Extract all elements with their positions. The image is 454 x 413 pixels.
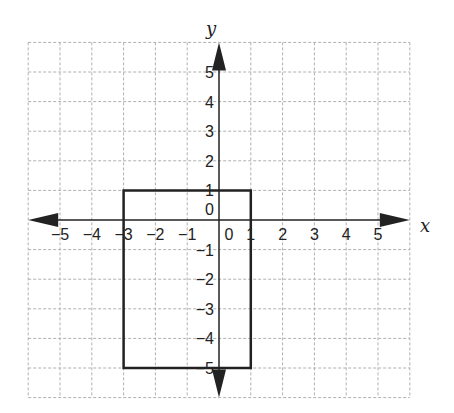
y-tick-label: 5 <box>205 64 214 81</box>
axes <box>28 42 410 397</box>
x-tick-label: 4 <box>342 226 351 243</box>
y-tick-label: 2 <box>205 153 214 170</box>
y-tick-label: 4 <box>205 94 214 111</box>
x-tick-label: 5 <box>374 226 383 243</box>
x-axis-label: x <box>420 215 430 236</box>
x-tick-label: −1 <box>178 226 196 243</box>
y-tick-label: −3 <box>196 301 214 318</box>
x-tick-label: −5 <box>51 226 69 243</box>
y-tick-label: −5 <box>196 360 214 377</box>
y-tick-label: −1 <box>196 242 214 259</box>
y-tick-label: 0 <box>205 201 214 218</box>
coordinate-plane: −5−4−3−2−1012345543210−1−2−3−4−5 x y <box>0 0 454 413</box>
x-tick-label: 2 <box>278 226 287 243</box>
y-axis-arrow-down-icon <box>212 370 226 398</box>
y-axis-arrow-up-icon <box>212 42 226 70</box>
y-tick-label: 3 <box>205 123 214 140</box>
x-tick-label: 0 <box>225 226 234 243</box>
y-tick-label: −4 <box>196 330 214 347</box>
y-tick-label: −2 <box>196 271 214 288</box>
x-tick-label: −4 <box>83 226 101 243</box>
x-tick-label: 1 <box>246 226 255 243</box>
y-tick-label: 1 <box>205 182 214 199</box>
x-tick-label: 3 <box>310 226 319 243</box>
x-tick-label: −2 <box>146 226 164 243</box>
x-axis-arrow-left-icon <box>28 213 58 227</box>
y-axis-label: y <box>205 18 217 39</box>
x-tick-label: −3 <box>114 226 132 243</box>
x-axis-arrow-right-icon <box>380 213 410 227</box>
